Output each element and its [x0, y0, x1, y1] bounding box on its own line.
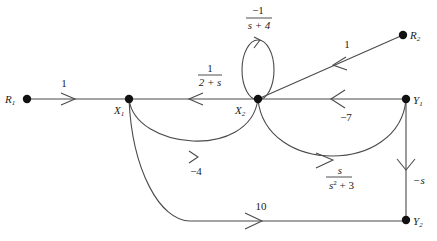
- gain-y1-y2: −s: [413, 174, 425, 186]
- gain-r1-x1: 1: [61, 77, 67, 89]
- node-label-r1: R1: [4, 93, 15, 107]
- node-y2: [402, 216, 410, 224]
- node-label-y1: Y1: [413, 94, 423, 108]
- gain-x2-selfloop-denominator: s + 4: [248, 19, 271, 31]
- edge-x1-y2: [129, 99, 406, 221]
- gain-x1-x2: −4: [190, 165, 202, 177]
- gain-x2-x1-numerator: 1: [207, 62, 213, 74]
- gain-x2-selfloop-numerator: −1: [252, 4, 264, 16]
- node-label-y2: Y2: [413, 215, 423, 229]
- edge-x2-selfloop: [242, 40, 274, 100]
- edge-r2-x2: [258, 35, 403, 99]
- edge-r2-x2-arrow: [333, 57, 347, 70]
- edge-x2-selfloop-arrow: [254, 37, 260, 48]
- gain-r2-x2: 1: [344, 38, 350, 50]
- gain-y1-x2: −7: [340, 111, 352, 123]
- node-r1: [23, 95, 31, 103]
- gain-x2-y1-numerator: s: [338, 164, 342, 176]
- gain-x2-y1-denominator: s2 + 3: [329, 179, 354, 191]
- node-x1: [125, 95, 133, 103]
- node-r2: [399, 31, 407, 39]
- gain-x1-y2: 10: [256, 200, 268, 212]
- edge-x2-y1: [258, 99, 406, 156]
- edge-x1-x2-arrow: [189, 151, 198, 163]
- gain-x2-x1-denominator: 2 + s: [199, 76, 222, 88]
- signal-flow-graph: R1 X1 X2 Y1 R2 Y2 1 1 2 + s −1 s + 4 1 −…: [0, 0, 437, 241]
- node-label-x1: X1: [113, 104, 124, 118]
- node-label-x2: X2: [234, 104, 246, 118]
- node-x2: [254, 95, 262, 103]
- node-y1: [402, 95, 410, 103]
- node-label-r2: R2: [409, 29, 421, 43]
